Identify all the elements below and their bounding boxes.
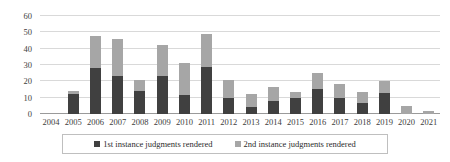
bar-segment-series-2[interactable] (334, 84, 345, 99)
bar-slot-2011[interactable] (196, 16, 218, 114)
x-tick-label: 2011 (196, 115, 218, 129)
bar-segment-series-1[interactable] (379, 93, 390, 114)
bar-slot-2019[interactable] (373, 16, 395, 114)
bar-slot-2015[interactable] (284, 16, 306, 114)
legend-item-1[interactable]: 1st instance judgments rendered (94, 140, 212, 149)
x-tick-label: 2019 (373, 115, 395, 129)
x-tick-label: 2021 (418, 115, 440, 129)
bar-segment-series-2[interactable] (223, 80, 234, 99)
y-tick-label: 0 (28, 110, 32, 119)
bar-slot-2005[interactable] (62, 16, 84, 114)
bar-slot-2009[interactable] (151, 16, 173, 114)
bar-stack[interactable] (246, 94, 257, 114)
legend-label: 1st instance judgments rendered (103, 140, 212, 149)
bar-segment-series-2[interactable] (423, 111, 434, 114)
bar-segment-series-2[interactable] (268, 87, 279, 101)
legend-item-2[interactable]: 2nd instance judgments rendered (235, 140, 356, 149)
bar-slot-2004[interactable] (40, 16, 62, 114)
bar-segment-series-1[interactable] (90, 68, 101, 114)
x-tick-label: 2015 (284, 115, 306, 129)
bar-segment-series-1[interactable] (157, 76, 168, 114)
x-tick-label: 2017 (329, 115, 351, 129)
x-tick-label: 2020 (396, 115, 418, 129)
x-tick-label: 2014 (262, 115, 284, 129)
series-1-swatch-icon (94, 141, 100, 147)
bar-stack[interactable] (401, 106, 412, 114)
bar-segment-series-2[interactable] (246, 94, 257, 107)
bar-segment-series-1[interactable] (201, 67, 212, 114)
x-tick-label: 2004 (40, 115, 62, 129)
bar-slot-2012[interactable] (218, 16, 240, 114)
bar-segment-series-2[interactable] (179, 63, 190, 95)
x-tick-label: 2006 (84, 115, 106, 129)
bar-slot-2013[interactable] (240, 16, 262, 114)
bar-stack[interactable] (223, 80, 234, 114)
x-tick-label: 2012 (218, 115, 240, 129)
bar-segment-series-1[interactable] (246, 107, 257, 114)
y-tick-label: 50 (24, 28, 33, 37)
x-tick-label: 2010 (173, 115, 195, 129)
bar-segment-series-1[interactable] (223, 98, 234, 114)
bar-slot-2021[interactable] (418, 16, 440, 114)
bar-slot-2007[interactable] (107, 16, 129, 114)
bar-stack[interactable] (357, 92, 368, 114)
y-tick-label: 20 (24, 77, 33, 86)
bar-segment-series-2[interactable] (379, 81, 390, 93)
bar-stack[interactable] (68, 91, 79, 114)
bar-segment-series-1[interactable] (357, 103, 368, 114)
bar-slot-2020[interactable] (396, 16, 418, 114)
bar-slot-2018[interactable] (351, 16, 373, 114)
y-tick-label: 40 (24, 44, 33, 53)
bar-slot-2016[interactable] (307, 16, 329, 114)
bar-stack[interactable] (423, 111, 434, 114)
bar-segment-series-2[interactable] (201, 34, 212, 67)
bar-segment-series-2[interactable] (357, 92, 368, 103)
bar-segment-series-2[interactable] (312, 73, 323, 89)
bar-segment-series-1[interactable] (268, 101, 279, 114)
bar-segment-series-2[interactable] (157, 45, 168, 76)
bar-stack[interactable] (312, 73, 323, 114)
series-2-swatch-icon (235, 141, 241, 147)
x-tick-label: 2009 (151, 115, 173, 129)
bar-slot-2017[interactable] (329, 16, 351, 114)
bar-slot-2010[interactable] (173, 16, 195, 114)
bar-stack[interactable] (157, 45, 168, 114)
y-axis-tick-labels: 0102030405060 (0, 16, 36, 114)
legend-label: 2nd instance judgments rendered (244, 140, 356, 149)
bar-stack[interactable] (90, 36, 101, 114)
bar-segment-series-2[interactable] (90, 36, 101, 69)
bar-stack[interactable] (268, 87, 279, 114)
x-axis-tick-labels: 2004200520062007200820092010201120122013… (40, 115, 440, 129)
bar-slot-2014[interactable] (262, 16, 284, 114)
bar-slot-2006[interactable] (84, 16, 106, 114)
bar-stack[interactable] (179, 63, 190, 114)
bar-segment-series-1[interactable] (312, 89, 323, 114)
bar-segment-series-1[interactable] (68, 94, 79, 114)
bar-segment-series-1[interactable] (179, 95, 190, 114)
bar-stack[interactable] (334, 84, 345, 114)
x-tick-label: 2007 (107, 115, 129, 129)
y-tick-label: 60 (24, 12, 33, 21)
y-tick-label: 10 (24, 93, 33, 102)
bar-segment-series-1[interactable] (334, 98, 345, 114)
bar-series-group (40, 16, 440, 114)
bar-stack[interactable] (201, 34, 212, 114)
bar-segment-series-2[interactable] (112, 39, 123, 77)
bar-stack[interactable] (379, 81, 390, 114)
bar-stack[interactable] (134, 80, 145, 114)
bar-chart: 0102030405060 20042005200620072008200920… (0, 0, 450, 162)
bar-stack[interactable] (290, 92, 301, 114)
bar-segment-series-1[interactable] (290, 98, 301, 114)
bar-segment-series-1[interactable] (112, 76, 123, 114)
x-tick-label: 2008 (129, 115, 151, 129)
plot-area (40, 16, 440, 114)
bar-segment-series-1[interactable] (134, 91, 145, 114)
y-tick-label: 30 (24, 61, 33, 70)
x-tick-label: 2005 (62, 115, 84, 129)
bar-stack[interactable] (112, 39, 123, 114)
x-tick-label: 2016 (307, 115, 329, 129)
bar-segment-series-2[interactable] (401, 106, 412, 114)
chart-legend: 1st instance judgments rendered2nd insta… (62, 134, 388, 154)
bar-segment-series-2[interactable] (134, 80, 145, 91)
bar-slot-2008[interactable] (129, 16, 151, 114)
